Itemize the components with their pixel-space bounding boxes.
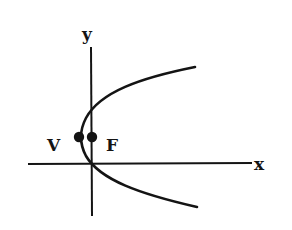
vertex-label: V <box>46 135 61 155</box>
x-axis <box>28 163 252 164</box>
y-axis-label: y <box>81 24 93 44</box>
parabola-curve <box>81 67 197 207</box>
y-axis <box>91 47 92 216</box>
x-axis-label: x <box>254 154 265 174</box>
focus-point <box>87 132 97 142</box>
focus-label: F <box>106 135 118 155</box>
vertex-point <box>74 132 84 142</box>
parabola-diagram: y x V F <box>0 0 292 230</box>
